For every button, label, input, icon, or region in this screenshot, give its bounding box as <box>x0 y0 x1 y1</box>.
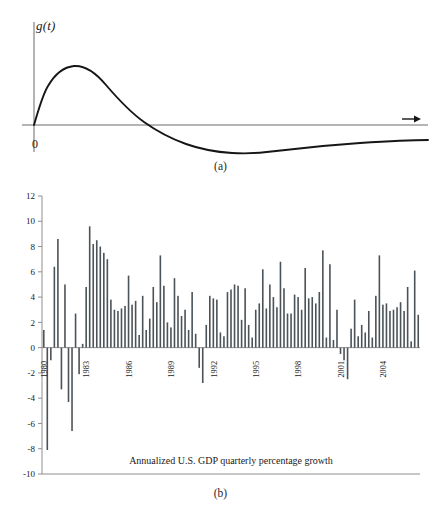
bar <box>78 348 80 375</box>
y-tick-label: -10 <box>23 469 35 479</box>
right-arrow-icon <box>402 116 421 123</box>
bar <box>170 327 172 347</box>
bar <box>248 325 250 348</box>
bar <box>156 302 158 347</box>
y-tick-label: 10 <box>26 216 36 226</box>
bar <box>107 259 109 347</box>
bar <box>372 338 374 348</box>
bar <box>61 348 63 390</box>
bar <box>301 310 303 348</box>
bar <box>220 332 222 347</box>
bar <box>163 286 165 348</box>
bar <box>410 341 412 347</box>
bar <box>99 247 101 348</box>
bar <box>152 287 154 348</box>
bar <box>407 287 409 348</box>
bar <box>128 276 130 348</box>
bar <box>135 301 137 348</box>
x-tick-label: 1992 <box>210 361 219 378</box>
bar <box>417 315 419 348</box>
bar <box>160 255 162 347</box>
bar <box>326 338 328 348</box>
bar <box>57 239 59 348</box>
figure-container: g(t) 0 (a) -10-8-6-4-2024681012198019831… <box>0 0 441 510</box>
bar <box>364 332 366 347</box>
bar <box>382 305 384 348</box>
panel-b-gdp-bar-chart: -10-8-6-4-202468101219801983198619891992… <box>0 180 441 510</box>
bar <box>269 284 271 347</box>
bar <box>237 286 239 348</box>
bar <box>121 308 123 347</box>
bar <box>241 320 243 348</box>
bar <box>92 244 94 348</box>
bar <box>195 334 197 348</box>
bar <box>354 300 356 348</box>
bar <box>273 297 275 348</box>
bar <box>403 311 405 348</box>
bar <box>290 314 292 348</box>
bar <box>68 348 70 402</box>
bar <box>308 298 310 347</box>
bar <box>124 306 126 348</box>
x-tick-group: 1989 <box>167 361 176 378</box>
bar <box>198 348 200 368</box>
panel-a-origin-label: 0 <box>32 137 38 152</box>
bar <box>184 310 186 348</box>
bar <box>396 307 398 347</box>
y-tick-label: -8 <box>28 444 36 454</box>
x-tick-group: 1983 <box>82 361 91 378</box>
bar <box>85 287 87 348</box>
bar <box>234 284 236 347</box>
bar <box>191 292 193 348</box>
x-tick-label: 1983 <box>82 361 91 378</box>
bar <box>96 240 98 347</box>
y-tick-label: 12 <box>26 191 35 201</box>
x-tick-label: 2001 <box>337 361 346 378</box>
panel-a-impulse-response: g(t) 0 <box>0 0 441 180</box>
bar <box>361 325 363 348</box>
bar <box>311 297 313 348</box>
bar <box>304 268 306 348</box>
bar <box>205 325 207 348</box>
bar <box>110 300 112 348</box>
bar <box>368 311 370 348</box>
bar <box>315 303 317 347</box>
bar <box>142 296 144 348</box>
bar <box>82 344 84 348</box>
bar <box>230 290 232 348</box>
bar <box>336 310 338 348</box>
bar <box>319 292 321 348</box>
bar <box>131 305 133 348</box>
x-tick-label: 1989 <box>167 361 176 378</box>
bar <box>357 336 359 347</box>
x-tick-group: 1992 <box>210 361 219 378</box>
bar <box>414 271 416 348</box>
panel-a-curve <box>34 66 428 153</box>
bar <box>177 296 179 348</box>
bar <box>138 335 140 348</box>
bar <box>43 330 45 348</box>
chart-title: Annualized U.S. GDP quarterly percentage… <box>129 455 333 466</box>
bar <box>149 319 151 348</box>
bar <box>350 329 352 348</box>
bar <box>64 284 66 347</box>
bar <box>294 295 296 348</box>
bar <box>114 310 116 348</box>
x-tick-label: 1995 <box>252 361 261 378</box>
bar <box>174 278 176 348</box>
bar <box>71 348 73 431</box>
bar <box>386 303 388 347</box>
y-tick-label: 0 <box>31 343 36 353</box>
bar <box>258 303 260 347</box>
y-tick-label: -2 <box>28 368 36 378</box>
panel-a-caption: (a) <box>0 160 441 172</box>
bar <box>266 308 268 347</box>
x-tick-label: 1986 <box>125 361 134 378</box>
bar <box>343 348 345 361</box>
y-tick-label: 8 <box>31 242 36 252</box>
bar <box>227 292 229 348</box>
bar <box>262 269 264 347</box>
bar <box>276 307 278 347</box>
bar <box>287 314 289 348</box>
y-tick-label: 2 <box>31 318 36 328</box>
